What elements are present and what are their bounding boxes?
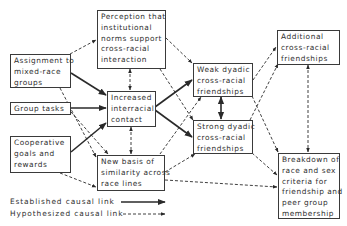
node-text: race and sex bbox=[282, 166, 337, 177]
node-text: mixed-race bbox=[14, 67, 68, 78]
edge-cooperative-to-newbasis bbox=[60, 173, 96, 187]
node-text: peer group bbox=[282, 198, 337, 209]
edge-perception-to-weak bbox=[166, 38, 192, 63]
node-text: New basis of bbox=[101, 157, 162, 168]
node-text: interaction bbox=[101, 55, 163, 66]
node-text: friendship and bbox=[282, 187, 337, 198]
node-text: cross-racial bbox=[197, 133, 250, 144]
edge-contact-to-weak bbox=[155, 80, 192, 107]
edge-strong-to-additional bbox=[250, 64, 278, 120]
node-assignment: Assignment to mixed-race groups bbox=[10, 54, 71, 88]
node-increased-contact: Increased interracial contact bbox=[107, 91, 156, 127]
node-strong-dyadic: Strong dyadic cross-racial friendships bbox=[193, 120, 253, 154]
node-text: contact bbox=[111, 115, 153, 126]
node-text: friendships bbox=[197, 87, 250, 98]
edge-newbasis-to-breakdown bbox=[165, 180, 277, 187]
node-text: goals and bbox=[14, 149, 68, 160]
node-group-tasks: Group tasks bbox=[10, 102, 71, 115]
node-text: friendships bbox=[281, 54, 337, 65]
node-additional: Additional cross-racial friendships bbox=[277, 30, 340, 65]
node-text: norms support bbox=[101, 34, 163, 45]
node-text: race lines bbox=[101, 179, 162, 190]
edge-weak-to-breakdown bbox=[252, 96, 278, 152]
node-text: Cooperative bbox=[14, 138, 68, 149]
node-text: Assignment to bbox=[14, 56, 68, 67]
node-cooperative: Cooperative goals and rewards bbox=[10, 136, 71, 173]
node-text: Breakdown of bbox=[282, 155, 337, 166]
node-text: Increased bbox=[111, 93, 153, 104]
edge-assignment-to-contact bbox=[71, 73, 106, 95]
node-text: cross-racial bbox=[197, 76, 250, 87]
legend-hypothesized-label: Hypothesized causal link bbox=[10, 209, 123, 218]
node-weak-dyadic: Weak dyadic cross-racial friendships bbox=[193, 63, 253, 97]
node-text: cross-racial bbox=[281, 43, 337, 54]
node-text: Additional bbox=[281, 32, 337, 43]
node-text: rewards bbox=[14, 160, 68, 171]
node-text: Weak dyadic bbox=[197, 65, 250, 76]
node-text: interracial bbox=[111, 104, 153, 115]
node-text: groups bbox=[14, 78, 68, 89]
edge-contact-to-strong bbox=[155, 110, 192, 137]
node-text: Group tasks bbox=[14, 104, 68, 115]
edge-cooperative-to-contact bbox=[71, 123, 106, 152]
node-text: Strong dyadic bbox=[197, 122, 250, 133]
node-text: friendships bbox=[197, 144, 250, 155]
edge-perception-to-strong bbox=[160, 69, 193, 120]
node-text: similarity across bbox=[101, 168, 162, 179]
edge-strong-to-breakdown bbox=[252, 153, 277, 175]
node-text: institutional bbox=[101, 23, 163, 34]
node-text: cross-racial bbox=[101, 44, 163, 55]
node-text: criteria for bbox=[282, 177, 337, 188]
node-text: membership bbox=[282, 209, 337, 220]
node-new-basis: New basis of similarity across race line… bbox=[97, 155, 165, 191]
node-text: Perception that bbox=[101, 12, 163, 23]
node-perception: Perception that institutional norms supp… bbox=[97, 10, 166, 69]
node-breakdown: Breakdown of race and sex criteria for f… bbox=[278, 153, 340, 219]
legend-established-label: Established causal link bbox=[10, 197, 115, 206]
edge-assignment-to-perception bbox=[70, 40, 96, 54]
